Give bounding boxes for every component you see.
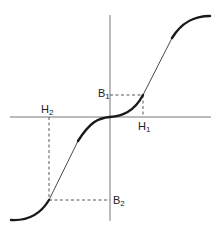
label-b2: B2 <box>113 195 125 208</box>
label-b1-sub: 1 <box>105 92 109 101</box>
label-h1-base: H <box>138 120 146 132</box>
label-h2-base: H <box>41 103 49 115</box>
label-b1: B1 <box>98 88 110 101</box>
upper-linear-segment <box>143 38 172 95</box>
label-h2: H2 <box>41 104 53 117</box>
lower-saturation-arc <box>11 200 49 220</box>
bh-curve-diagram <box>0 0 222 232</box>
label-h1: H1 <box>138 121 150 134</box>
lower-linear-segment <box>49 141 78 200</box>
label-h2-sub: 2 <box>49 108 53 117</box>
upper-saturation-arc <box>172 16 210 38</box>
label-b2-sub: 2 <box>120 199 124 208</box>
label-h1-sub: 1 <box>146 125 150 134</box>
